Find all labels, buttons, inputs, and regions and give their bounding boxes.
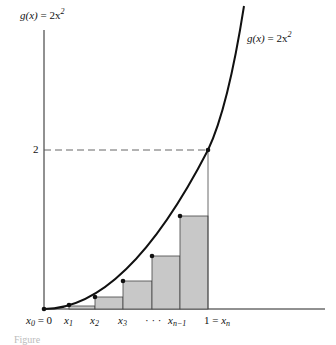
curve-label: g(x) = 2x2	[247, 30, 291, 44]
x-tick-3: x3	[118, 314, 127, 328]
x-tick-ellipsis: · · ·	[145, 314, 162, 326]
lower-sum-rectangles	[69, 216, 208, 309]
x-tick-2: x2	[90, 314, 99, 328]
y-tick-2: 2	[33, 143, 39, 155]
x-tick-n: 1 = xn	[204, 314, 230, 328]
figure-caption: Figure	[14, 334, 40, 345]
x-tick-0: x0 = 0	[26, 314, 52, 328]
curve-g	[44, 6, 244, 309]
x-tick-n-1: xn−1	[168, 314, 186, 328]
x-tick-1: x1	[64, 314, 73, 328]
y-axis-label: g(x) = 2x2	[20, 7, 64, 21]
